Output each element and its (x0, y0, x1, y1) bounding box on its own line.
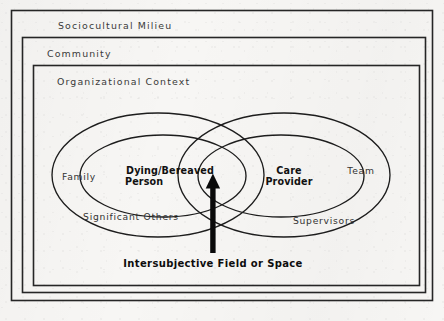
caption-intersubjective-field: Intersubjective Field or Space (123, 258, 302, 270)
ellipse-label-dying-bereaved-person: Dying/Bereaved Person (126, 165, 214, 187)
ellipse-label-significant-others: Significant Others (83, 212, 179, 223)
ellipse-label-family: Family (62, 172, 96, 183)
care-provider-line2: Provider (265, 176, 312, 187)
diagram-figure: Sociocultural Milieu Community Organizat… (0, 0, 444, 321)
frame-label-sociocultural: Sociocultural Milieu (58, 21, 172, 32)
ellipse-label-care-provider: Care Provider (265, 165, 312, 187)
ellipse-label-team: Team (347, 166, 374, 177)
frame-label-organizational: Organizational Context (57, 77, 190, 88)
ellipse-label-supervisors: Supervisors (293, 216, 355, 227)
care-provider-line1: Care (276, 165, 301, 176)
frame-label-community: Community (47, 49, 112, 60)
dying-bereaved-line1: Dying/Bereaved (126, 165, 214, 176)
dying-bereaved-line2: Person (125, 176, 214, 187)
